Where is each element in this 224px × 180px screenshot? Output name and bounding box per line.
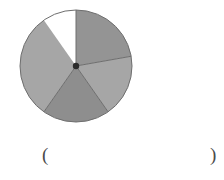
figure-root: ( ) [0, 0, 224, 180]
close-paren: ) [210, 145, 216, 164]
pie-center-dot [73, 63, 79, 69]
answer-blank-line: ( ) [0, 134, 224, 174]
open-paren: ( [42, 145, 48, 164]
